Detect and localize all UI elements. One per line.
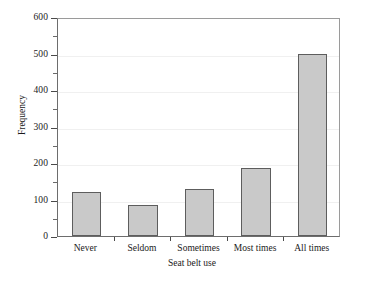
y-axis-minor-tick: [53, 146, 57, 147]
x-axis-tick: [114, 237, 115, 241]
y-axis-label: 400: [20, 86, 48, 96]
y-axis-tick: [51, 201, 57, 202]
x-axis-tick: [283, 237, 284, 241]
gridline: [58, 129, 339, 130]
bar: [185, 189, 214, 236]
y-axis-tick: [51, 164, 57, 165]
y-axis-minor-tick: [53, 182, 57, 183]
gridline: [58, 165, 339, 166]
y-axis-minor-tick: [53, 73, 57, 74]
bar: [72, 192, 101, 236]
y-axis-label: 500: [20, 50, 48, 60]
y-axis-tick: [51, 128, 57, 129]
y-axis-minor-tick: [53, 36, 57, 37]
bar-chart: Frequency Seat belt use 0100200300400500…: [0, 0, 384, 281]
x-axis-category-label: Most times: [227, 243, 284, 254]
x-axis-category-label: Never: [57, 243, 114, 254]
gridline: [58, 56, 339, 57]
x-axis-category-label: All times: [283, 243, 340, 254]
y-axis-label: 100: [20, 196, 48, 206]
bar: [298, 54, 327, 237]
x-axis-title: Seat belt use: [0, 258, 384, 268]
y-axis-label: 600: [20, 13, 48, 23]
y-axis-minor-tick: [53, 109, 57, 110]
y-axis-minor-tick: [53, 219, 57, 220]
y-axis-tick: [51, 55, 57, 56]
x-axis-category-label: Sometimes: [170, 243, 227, 254]
y-axis-label: 200: [20, 159, 48, 169]
x-axis-tick: [227, 237, 228, 241]
bar: [241, 168, 270, 236]
y-axis-tick: [51, 18, 57, 19]
x-axis-tick: [170, 237, 171, 241]
gridline: [58, 92, 339, 93]
y-axis-tick: [51, 91, 57, 92]
plot-area: [57, 18, 340, 237]
x-axis-category-label: Seldom: [114, 243, 171, 254]
bar: [128, 205, 157, 236]
y-axis-label: 300: [20, 123, 48, 133]
y-axis-label: 0: [20, 232, 48, 242]
y-axis-tick: [51, 237, 57, 238]
